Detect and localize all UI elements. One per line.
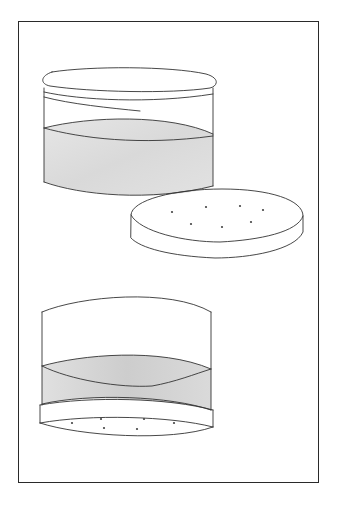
disc-hole — [100, 418, 102, 420]
disc-hole — [262, 209, 264, 211]
disc-hole — [205, 206, 207, 208]
disc-hole — [136, 428, 138, 430]
lower-view — [40, 297, 213, 436]
patent-figure: Container with lid and perforated disc i… — [0, 0, 339, 512]
upper-view — [43, 68, 303, 258]
disc-hole — [190, 223, 192, 225]
upper-liquid — [44, 119, 213, 195]
disc-hole — [250, 221, 252, 223]
disc-hole — [143, 418, 145, 420]
upper-lid — [43, 68, 217, 92]
disc-hole — [71, 422, 73, 424]
disc-hole — [239, 205, 241, 207]
lower-perforated-disc — [40, 399, 213, 435]
disc-hole — [173, 422, 175, 424]
disc-hole — [171, 211, 173, 213]
upper-perforated-disc — [131, 189, 303, 258]
disc-hole — [103, 427, 105, 429]
drawing-canvas — [0, 0, 339, 512]
disc-hole — [221, 226, 223, 228]
